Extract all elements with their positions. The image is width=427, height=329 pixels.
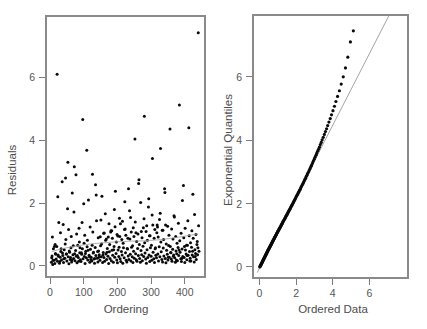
data-point (120, 250, 123, 253)
data-point (138, 243, 141, 246)
data-point (118, 246, 121, 249)
data-point (100, 195, 103, 198)
data-point (157, 259, 160, 262)
data-point (114, 225, 117, 228)
data-point (85, 149, 88, 152)
data-point (137, 254, 140, 257)
data-point (182, 184, 185, 187)
data-point (162, 247, 165, 250)
data-point (52, 259, 55, 262)
data-point (119, 222, 122, 225)
data-point (56, 73, 59, 76)
data-point (129, 216, 132, 219)
data-point (94, 183, 97, 186)
data-point (196, 253, 199, 256)
data-point (178, 103, 181, 106)
data-point (99, 219, 102, 222)
data-point (143, 241, 146, 244)
data-point (172, 253, 175, 256)
data-point (152, 251, 155, 254)
data-point (65, 253, 68, 256)
data-point (134, 220, 137, 223)
data-point (134, 252, 137, 255)
data-point (118, 235, 121, 238)
data-point (138, 257, 141, 260)
data-point (164, 224, 167, 227)
x-tick-label: 400 (176, 286, 194, 298)
data-point (197, 224, 200, 227)
data-point (175, 249, 178, 252)
data-point (121, 262, 124, 265)
data-point (124, 234, 127, 237)
data-point (173, 215, 176, 218)
data-point (148, 234, 151, 237)
x-tick-label: 6 (367, 287, 373, 299)
data-point (336, 95, 339, 98)
data-point (329, 117, 332, 120)
data-point (153, 228, 156, 231)
data-point (91, 231, 94, 234)
data-point (66, 207, 69, 210)
data-point (177, 254, 180, 257)
data-point (180, 257, 183, 260)
data-point (115, 259, 118, 262)
data-point (190, 229, 193, 232)
data-point (136, 247, 139, 250)
residual-and-qq-figure: 0100200300400 0246 Ordering Residuals 02… (0, 0, 427, 329)
data-point (124, 251, 127, 254)
data-point (147, 205, 150, 208)
data-point (84, 262, 87, 265)
data-point (189, 241, 192, 244)
data-point (193, 213, 196, 216)
data-point (61, 254, 64, 257)
data-point (94, 246, 97, 249)
data-point (188, 259, 191, 262)
data-point (324, 130, 327, 133)
data-point (176, 242, 179, 245)
data-point (107, 262, 110, 265)
data-point (61, 180, 64, 183)
data-point (330, 113, 333, 116)
data-point (126, 237, 129, 240)
data-point (118, 217, 121, 220)
data-point (166, 259, 169, 262)
data-point (102, 251, 105, 254)
data-point (54, 243, 57, 246)
left-x-axis-title: Ordering (104, 303, 149, 315)
data-point (73, 252, 76, 255)
data-point (137, 182, 140, 185)
data-point (113, 245, 116, 248)
data-point (349, 40, 352, 43)
data-point (158, 255, 161, 258)
data-point (323, 133, 326, 136)
data-point (71, 192, 74, 195)
data-point (193, 260, 196, 263)
data-point (69, 256, 72, 259)
figure-panel-container: 0100200300400 0246 Ordering Residuals 02… (0, 0, 427, 329)
data-point (144, 252, 147, 255)
data-point (170, 260, 173, 263)
data-point (51, 236, 54, 239)
data-point (164, 261, 167, 264)
data-point (97, 256, 100, 259)
data-point (196, 240, 199, 243)
data-point (67, 262, 70, 265)
x-tick-label: 2 (293, 287, 299, 299)
data-point (338, 89, 341, 92)
data-point (159, 212, 162, 215)
data-point (127, 187, 130, 190)
data-point (159, 147, 162, 150)
data-point (153, 261, 156, 264)
data-point (67, 228, 70, 231)
data-point (113, 256, 116, 259)
data-point (163, 187, 166, 190)
data-point (140, 249, 143, 252)
data-point (121, 220, 124, 223)
data-point (64, 238, 67, 241)
data-point (105, 251, 108, 254)
y-tick-label: 0 (236, 261, 242, 273)
data-point (184, 227, 187, 230)
data-point (150, 255, 153, 258)
data-point (54, 253, 57, 256)
data-point (105, 237, 108, 240)
